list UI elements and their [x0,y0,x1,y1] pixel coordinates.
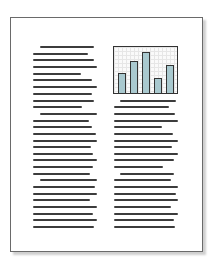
text-line [40,113,97,115]
text-line [40,179,97,181]
text-line [114,153,178,155]
text-line [114,206,171,208]
text-line [33,206,97,208]
chart-bar [130,61,138,93]
text-line [33,100,94,102]
bar-chart [113,46,178,94]
text-line [33,199,90,201]
text-line [114,146,172,148]
text-line [120,173,174,175]
text-line [114,213,178,215]
text-line [114,226,175,228]
text-line [33,53,88,55]
text-line [33,79,92,81]
text-line [114,159,174,161]
text-line [33,166,93,168]
chart-bar [154,78,162,93]
text-line [114,113,175,115]
chart-bar [166,65,174,93]
text-line [33,219,97,221]
text-line [114,179,171,181]
text-line [114,133,173,135]
text-line [33,59,94,61]
text-line [114,166,163,168]
text-line [33,86,97,88]
text-line [114,193,176,195]
text-line [33,213,93,215]
chart-bar [142,52,150,93]
text-line [33,186,95,188]
text-line [33,126,92,128]
text-line [114,106,169,108]
text-line [33,226,94,228]
text-line [33,193,97,195]
text-line [114,186,178,188]
text-line [33,106,82,108]
text-line [114,199,178,201]
text-line [114,120,178,122]
text-line [120,100,176,102]
text-line [114,140,178,142]
text-line [33,66,97,68]
text-line [33,120,89,122]
text-line [114,219,174,221]
text-line [114,126,162,128]
text-line [33,146,91,148]
chart-bar [118,73,126,93]
text-line [33,140,97,142]
text-line [33,153,93,155]
text-line [33,93,92,95]
text-line [40,46,94,48]
text-line [33,173,90,175]
text-line [33,73,81,75]
text-line [33,159,97,161]
text-line [33,133,96,135]
